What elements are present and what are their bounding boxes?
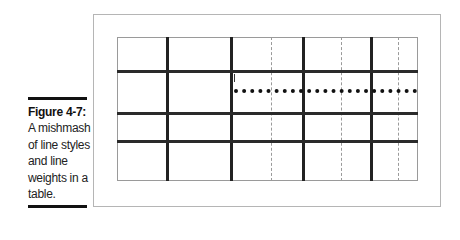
caption-line: and line	[28, 153, 92, 170]
text-cursor	[234, 74, 235, 82]
dotted-horizontal-border	[234, 89, 417, 93]
dashed-vertical-border	[271, 37, 272, 181]
thick-horizontal-border	[117, 70, 418, 73]
caption-top-rule	[28, 97, 87, 100]
thick-vertical-border	[230, 37, 233, 181]
caption-line: table.	[28, 186, 92, 203]
thick-vertical-border	[370, 37, 373, 181]
thick-horizontal-border	[117, 112, 418, 115]
dashed-vertical-border	[398, 37, 399, 181]
thick-vertical-border	[302, 37, 305, 181]
dashed-vertical-border	[341, 37, 342, 181]
caption-line: A mishmash	[28, 120, 92, 137]
thick-horizontal-border	[117, 140, 418, 143]
figure-caption: A mishmash of line styles and line weigh…	[28, 120, 92, 203]
caption-line: weights in a	[28, 170, 92, 187]
thick-vertical-border	[166, 37, 169, 181]
caption-line: of line styles	[28, 137, 92, 154]
figure-label: Figure 4-7:	[28, 105, 86, 119]
caption-bottom-rule	[28, 205, 87, 208]
